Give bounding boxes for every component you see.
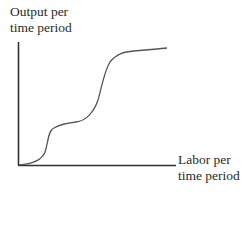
x-axis-label-line1: Labor per [178, 152, 240, 168]
x-axis-label-line2: time period [178, 168, 240, 184]
output-curve [19, 48, 167, 165]
x-axis-label: Labor per time period [178, 152, 240, 184]
